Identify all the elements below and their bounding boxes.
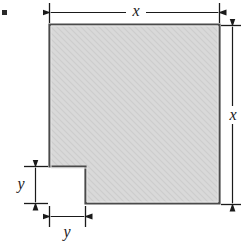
dimension-label-x-top: x	[127, 3, 145, 19]
bullet-marker	[2, 10, 7, 15]
dimension-label-x-right: x	[224, 107, 242, 123]
figure-canvas: x x y y	[0, 0, 244, 247]
dimension-label-y-bottom: y	[58, 224, 76, 240]
notched-square-plate	[50, 25, 220, 204]
dimension-diagram	[0, 0, 244, 247]
dimension-label-y-left: y	[12, 176, 30, 192]
